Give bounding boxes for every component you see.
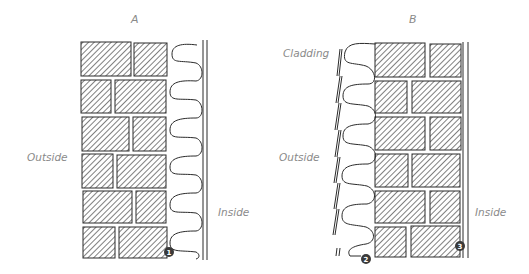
panel-a-outside-label: Outside bbox=[27, 151, 68, 163]
panel-a-insulation bbox=[170, 44, 202, 259]
panel-b-title: B bbox=[409, 13, 417, 26]
wall-section-diagram: 1 2 bbox=[0, 0, 529, 274]
panel-a-inside-label: Inside bbox=[218, 206, 249, 218]
panel-b-cladding bbox=[333, 49, 342, 256]
panel-b-insulation bbox=[342, 43, 376, 256]
svg-text:1: 1 bbox=[167, 249, 172, 257]
panel-b-inner-lining bbox=[463, 42, 468, 258]
panel-a-brick-wall bbox=[81, 42, 167, 258]
panel-b-outside-label: Outside bbox=[279, 151, 320, 163]
panel-b-inside-label: Inside bbox=[475, 206, 506, 218]
marker-2: 2 bbox=[361, 254, 371, 264]
svg-text:3: 3 bbox=[458, 243, 463, 251]
panel-a-title: A bbox=[131, 13, 139, 26]
panel-a-inner-lining bbox=[203, 40, 207, 260]
marker-3: 3 bbox=[455, 241, 465, 251]
panel-b-brick-wall bbox=[375, 43, 461, 257]
panel-b-cladding-label: Cladding bbox=[283, 47, 329, 59]
svg-text:2: 2 bbox=[364, 256, 369, 264]
marker-1: 1 bbox=[164, 247, 174, 257]
